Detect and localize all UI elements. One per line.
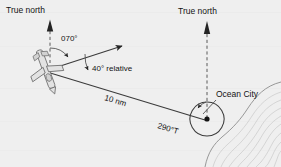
diagram-background (0, 0, 281, 167)
true-north-left-label: True north (6, 5, 45, 15)
bearing-diagram: True north True north 070° 40° relative … (0, 0, 281, 167)
relative-bearing-label: 40° relative (92, 64, 133, 73)
course-angle-label: 070° (61, 34, 78, 43)
station-dot-icon (204, 116, 209, 121)
destination-label: Ocean City (216, 89, 259, 99)
diagram-canvas: True north True north 070° 40° relative … (0, 0, 281, 167)
true-north-right-label: True north (178, 6, 217, 16)
